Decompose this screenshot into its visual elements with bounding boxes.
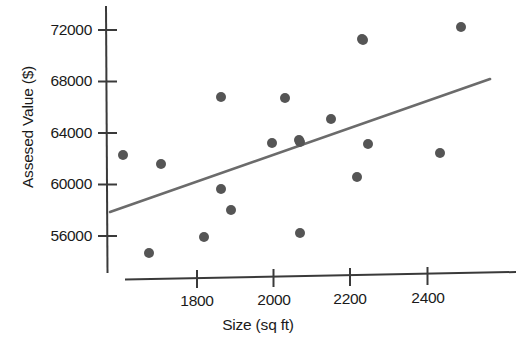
data-point <box>267 138 277 148</box>
y-axis-line <box>106 6 108 273</box>
y-tick-label-64000: 64000 <box>18 124 92 142</box>
y-tick-label-56000: 56000 <box>18 227 92 245</box>
data-point <box>144 248 154 258</box>
x-tick-label-2000: 2000 <box>234 291 314 309</box>
axes <box>98 6 516 288</box>
x-tick-label-1800: 1800 <box>157 292 237 310</box>
data-point <box>456 22 466 32</box>
data-point <box>363 139 373 149</box>
data-point <box>118 150 128 160</box>
y-tick-label-68000: 68000 <box>18 72 92 90</box>
data-point <box>216 184 226 194</box>
x-axis-line <box>125 272 516 280</box>
x-tick-label-2200: 2200 <box>310 290 390 308</box>
data-point <box>216 92 226 102</box>
data-point <box>156 159 166 169</box>
data-point <box>326 114 336 124</box>
data-point <box>358 35 368 45</box>
y-tick-label-60000: 60000 <box>18 175 92 193</box>
x-tick-label-2400: 2400 <box>388 289 468 307</box>
data-point <box>199 232 209 242</box>
x-axis-label: Size (sq ft) <box>0 316 516 334</box>
data-point <box>294 135 304 145</box>
data-point <box>435 148 445 158</box>
data-point <box>226 205 236 215</box>
data-point <box>280 93 290 103</box>
data-points <box>118 22 466 258</box>
data-point <box>295 228 305 238</box>
data-point <box>352 172 362 182</box>
y-tick-label-72000: 72000 <box>18 21 92 39</box>
